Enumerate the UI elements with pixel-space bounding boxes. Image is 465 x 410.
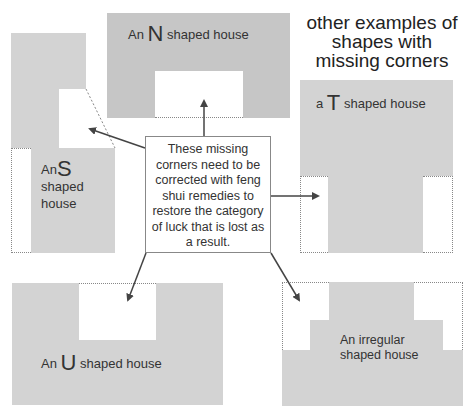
- arrow-to-u: [128, 253, 146, 300]
- note-line: a result.: [146, 235, 270, 251]
- note-line: corners need to be: [146, 158, 270, 174]
- arrow-to-irregular: [271, 253, 299, 300]
- note-line: These missing: [146, 142, 270, 158]
- note-line: of luck that is lost as: [146, 220, 270, 236]
- s-missing-diagonal: [86, 89, 115, 148]
- note-line: shui remedies to: [146, 189, 270, 205]
- note-line: restore the category: [146, 204, 270, 220]
- note-line: corrected with feng: [146, 173, 270, 189]
- arrow-to-s: [90, 129, 145, 148]
- center-note-box: These missing corners need to be correct…: [145, 136, 271, 253]
